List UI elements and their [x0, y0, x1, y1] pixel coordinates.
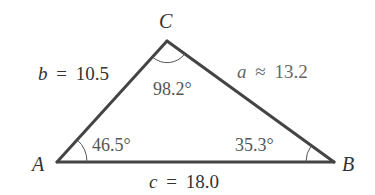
side-b-value: 10.5 — [76, 63, 109, 84]
vertex-b-label: B — [342, 153, 354, 175]
vertex-a-label: A — [30, 153, 45, 175]
side-c-label: c = 18.0 — [149, 171, 219, 192]
angle-a-label: 46.5° — [92, 135, 131, 155]
triangle-diagram: C A B b = 10.5 a ≈ 13.2 c = 18.0 98.2° 4… — [0, 0, 375, 195]
side-a-relation: ≈ — [255, 61, 265, 82]
side-b-var: b — [38, 63, 48, 84]
side-a-var: a — [237, 61, 247, 82]
angle-c-label: 98.2° — [153, 79, 192, 99]
side-a-label: a ≈ 13.2 — [237, 61, 308, 82]
side-b-label: b = 10.5 — [38, 63, 109, 84]
side-c-var: c — [149, 171, 158, 192]
side-c-relation: = — [166, 171, 177, 192]
side-c-value: 18.0 — [186, 171, 219, 192]
side-a-value: 13.2 — [274, 61, 307, 82]
side-b-relation: = — [56, 63, 67, 84]
angle-arc-c — [153, 54, 185, 63]
vertex-c-label: C — [159, 10, 173, 32]
angle-b-label: 35.3° — [235, 135, 274, 155]
angle-arc-a — [77, 140, 87, 162]
angle-arc-b — [306, 146, 311, 163]
